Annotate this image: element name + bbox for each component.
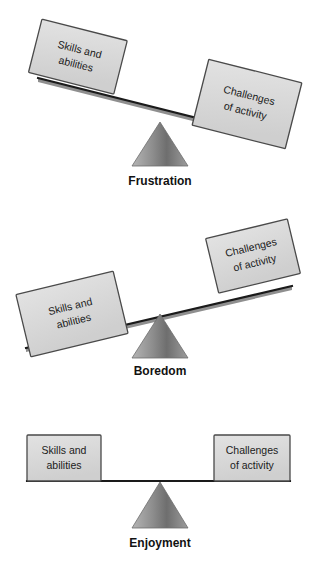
skills-box-enjoyment: Skills and abilities <box>27 435 101 481</box>
frustration-svg: Skills and abilities Challenges of activ… <box>0 0 310 190</box>
challenges-box-line2: of activity <box>230 459 275 471</box>
skills-box-boredom: Skills and abilities <box>16 271 128 357</box>
caption-boredom: Boredom <box>134 364 187 378</box>
seesaw-diagram-frustration: Skills and abilities Challenges of activ… <box>0 0 310 190</box>
boredom-svg: Skills and abilities Challenges of activ… <box>0 190 310 380</box>
skills-box-line1: Skills and <box>42 444 87 456</box>
caption-enjoyment: Enjoyment <box>129 536 190 550</box>
challenges-box-frustration: Challenges of activity <box>192 59 302 148</box>
challenges-box-line1: Challenges <box>226 444 279 456</box>
enjoyment-svg: Skills and abilities Challenges of activ… <box>0 380 310 569</box>
challenges-box-enjoyment: Challenges of activity <box>214 435 290 481</box>
seesaw-diagram-boredom: Skills and abilities Challenges of activ… <box>0 190 310 380</box>
challenges-box-boredom: Challenges of activity <box>206 219 301 293</box>
fulcrum-triangle <box>132 122 188 166</box>
seesaw-diagram-enjoyment: Skills and abilities Challenges of activ… <box>0 380 310 569</box>
skills-box-line2: abilities <box>46 459 81 471</box>
caption-frustration: Frustration <box>128 174 191 188</box>
fulcrum-triangle <box>132 482 188 528</box>
